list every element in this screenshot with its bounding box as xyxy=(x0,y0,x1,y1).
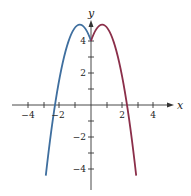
x-tick-label: 4 xyxy=(150,110,156,120)
left-curve xyxy=(46,25,91,176)
y-tick-label: 2 xyxy=(80,68,86,78)
x-tick-label: 2 xyxy=(119,110,125,120)
parabola-chart: −4 −2 2 4 4 2 −2 −4 x y xyxy=(0,0,191,196)
right-curve xyxy=(91,25,136,176)
x-tick-label: −2 xyxy=(51,110,64,120)
y-axis-arrow-icon xyxy=(89,20,94,27)
x-tick-label: −4 xyxy=(21,110,35,120)
y-axis-label: y xyxy=(87,7,95,20)
axes xyxy=(12,24,170,190)
y-tick-label: −2 xyxy=(73,132,86,142)
y-tick-label: −4 xyxy=(73,164,87,174)
y-tick-label: 4 xyxy=(80,36,86,46)
x-axis-label: x xyxy=(177,99,184,112)
x-axis-arrow-icon xyxy=(167,103,174,108)
